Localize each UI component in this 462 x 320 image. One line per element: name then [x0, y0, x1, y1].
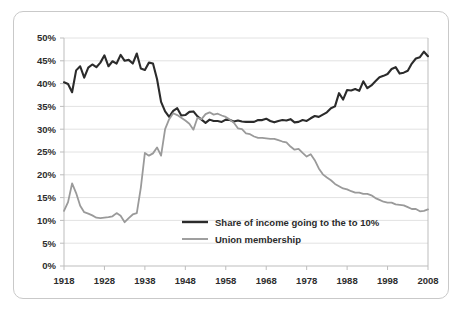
- y-axis-tick-labels: 0%5%10%15%20%25%30%35%40%45%50%: [37, 32, 57, 271]
- x-axis-tick-label: 1988: [337, 275, 358, 286]
- x-axis-tick-label: 1958: [215, 275, 236, 286]
- chart-card: 0%5%10%15%20%25%30%35%40%45%50% 19181928…: [13, 11, 449, 299]
- y-axis-tick-label: 40%: [37, 78, 57, 89]
- x-axis-tick-label: 1918: [53, 275, 74, 286]
- line-chart: 0%5%10%15%20%25%30%35%40%45%50% 19181928…: [14, 12, 450, 300]
- gridlines: [64, 38, 428, 243]
- x-axis-tick-label: 2008: [417, 275, 438, 286]
- y-axis-tick-label: 5%: [42, 238, 56, 249]
- legend-label-union-membership: Union membership: [215, 234, 301, 245]
- y-axis-tick-label: 0%: [42, 260, 56, 271]
- chart-plot-area: 0%5%10%15%20%25%30%35%40%45%50% 19181928…: [14, 12, 450, 300]
- y-axis-tick-label: 45%: [37, 55, 57, 66]
- y-axis-tick-label: 50%: [37, 32, 57, 43]
- data-series-group: [64, 52, 428, 223]
- x-axis-tick-label: 1968: [256, 275, 277, 286]
- x-axis-tick-label: 1928: [94, 275, 115, 286]
- x-axis-tick-labels: 1918192819381948195819681978198819982008: [53, 275, 438, 286]
- y-axis-tick-label: 35%: [37, 101, 57, 112]
- x-axis-tick-label: 1948: [175, 275, 196, 286]
- x-axis-tick-label: 1938: [134, 275, 155, 286]
- y-axis-tick-label: 30%: [37, 124, 57, 135]
- legend-label-income-share: Share of income going to the to 10%: [215, 217, 380, 228]
- series-line-income-share: [64, 52, 428, 123]
- y-axis-tick-label: 15%: [37, 192, 57, 203]
- x-axis-tick-label: 1998: [377, 275, 398, 286]
- y-axis-tick-label: 20%: [37, 169, 57, 180]
- y-axis-tick-label: 25%: [37, 146, 57, 157]
- x-axis-tick-label: 1978: [296, 275, 317, 286]
- y-axis-tick-label: 10%: [37, 215, 57, 226]
